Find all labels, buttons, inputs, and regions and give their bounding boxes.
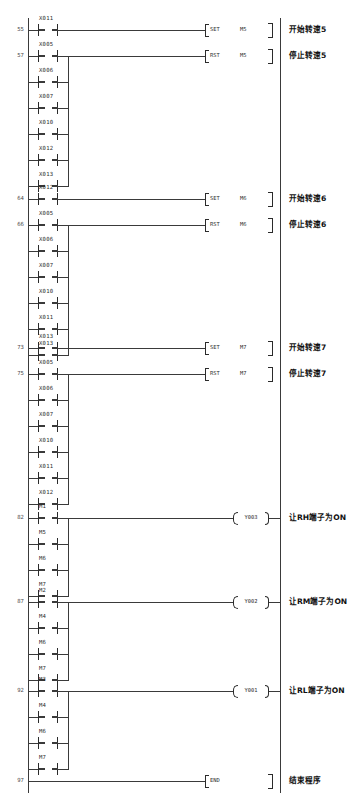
contact-bar-left: [38, 564, 39, 576]
contact-M5[interactable]: [38, 538, 58, 550]
contact-bar-left: [38, 24, 39, 36]
contact-X006[interactable]: [38, 76, 58, 88]
rung-lead-in: [28, 30, 38, 31]
contact-M2[interactable]: [38, 596, 58, 608]
contact-M7[interactable]: [38, 763, 58, 775]
contact-bar-left: [38, 154, 39, 166]
contact-X010[interactable]: [38, 297, 58, 309]
branch-vertical-connector: [68, 56, 69, 186]
instruction-box-end[interactable]: END: [205, 775, 235, 788]
instruction-box-rst[interactable]: RST: [205, 368, 235, 381]
contact-X005[interactable]: [38, 219, 58, 231]
instruction-box-rst[interactable]: RST: [205, 50, 235, 63]
instruction-bracket-left: [205, 775, 209, 788]
contact-bar-left: [38, 368, 39, 380]
contact-X005[interactable]: [38, 50, 58, 62]
contact-X010[interactable]: [38, 446, 58, 458]
branch-lead-in: [28, 134, 38, 135]
contact-X012[interactable]: [38, 193, 58, 205]
branch-lead-in: [28, 717, 38, 718]
contact-M6[interactable]: [38, 737, 58, 749]
instruction-bracket-right: [268, 774, 273, 789]
device-label-X012: X012: [39, 185, 53, 191]
coil-device-label: Y001: [233, 688, 269, 693]
contact-X005[interactable]: [38, 368, 58, 380]
contact-M3[interactable]: [38, 685, 58, 697]
rung-comment: 停止转速7: [289, 370, 326, 378]
contact-X006[interactable]: [38, 394, 58, 406]
rung-number: 66: [2, 222, 24, 228]
branch-lead-in: [28, 426, 38, 427]
output-coil-Y002[interactable]: Y002: [233, 596, 269, 609]
contact-X007[interactable]: [38, 102, 58, 114]
contact-M6[interactable]: [38, 564, 58, 576]
contact-X007[interactable]: [38, 420, 58, 432]
contact-bar-left: [38, 76, 39, 88]
branch-lead-in: [28, 570, 38, 571]
device-label-M5: M5: [39, 530, 46, 536]
device-label-X013: X013: [39, 334, 53, 340]
rung-lead-in: [28, 199, 38, 200]
instruction-bracket-right: [268, 23, 273, 38]
contact-M1[interactable]: [38, 512, 58, 524]
instruction-opcode: RST: [210, 371, 220, 376]
instruction-box-set[interactable]: SET: [205, 193, 235, 206]
branch-lead-in: [28, 186, 38, 187]
instruction-opcode: RST: [210, 53, 220, 58]
device-label-M7: M7: [39, 666, 46, 672]
contact-X013[interactable]: [38, 342, 58, 354]
device-label-M4: M4: [39, 703, 46, 709]
instruction-opcode: RST: [210, 222, 220, 227]
rung-main-wire: [58, 518, 233, 519]
branch-rail-segment: [28, 691, 29, 769]
instruction-bracket-right: [268, 218, 273, 233]
contact-bar-left: [38, 472, 39, 484]
contact-X010[interactable]: [38, 128, 58, 140]
device-label-X006: X006: [39, 237, 53, 243]
branch-join-wire: [58, 186, 69, 187]
rung-number: 64: [2, 196, 24, 202]
rung-comment: 停止转速6: [289, 221, 326, 229]
instruction-operand: M6: [240, 196, 247, 201]
instruction-bracket-right: [268, 49, 273, 64]
rung-comment: 结束程序: [289, 777, 321, 785]
branch-vertical-connector: [68, 225, 69, 355]
instruction-operand: M7: [240, 345, 247, 350]
rung-main-wire: [58, 602, 233, 603]
output-coil-Y001[interactable]: Y001: [233, 685, 269, 698]
instruction-box-set[interactable]: SET: [205, 24, 235, 37]
instruction-opcode: SET: [210, 345, 220, 350]
rung-main-wire: [58, 225, 205, 226]
contact-M4[interactable]: [38, 622, 58, 634]
contact-bar-left: [38, 102, 39, 114]
branch-lead-in: [28, 108, 38, 109]
instruction-operand: M5: [240, 27, 247, 32]
output-coil-Y003[interactable]: Y003: [233, 512, 269, 525]
branch-lead-in: [28, 82, 38, 83]
contact-X012[interactable]: [38, 154, 58, 166]
contact-X011[interactable]: [38, 472, 58, 484]
contact-X007[interactable]: [38, 271, 58, 283]
rung-main-wire: [58, 348, 205, 349]
contact-bar-left: [38, 538, 39, 550]
contact-bar-left: [38, 128, 39, 140]
rung-lead-in: [28, 518, 38, 519]
coil-device-label: Y002: [233, 599, 269, 604]
instruction-box-set[interactable]: SET: [205, 342, 235, 355]
contact-X011[interactable]: [38, 24, 58, 36]
rung-comment: 停止转速5: [289, 52, 326, 60]
contact-bar-left: [38, 596, 39, 608]
instruction-box-rst[interactable]: RST: [205, 219, 235, 232]
contact-M4[interactable]: [38, 711, 58, 723]
device-label-X005: X005: [39, 360, 53, 366]
rung-main-wire: [58, 199, 205, 200]
rung-main-wire: [58, 56, 205, 57]
branch-lead-in: [28, 329, 38, 330]
device-label-M1: M1: [39, 504, 46, 510]
contact-bar-left: [38, 271, 39, 283]
contact-bar-left: [38, 50, 39, 62]
branch-lead-in: [28, 452, 38, 453]
instruction-bracket-left: [205, 219, 209, 232]
contact-X006[interactable]: [38, 245, 58, 257]
contact-M6[interactable]: [38, 648, 58, 660]
